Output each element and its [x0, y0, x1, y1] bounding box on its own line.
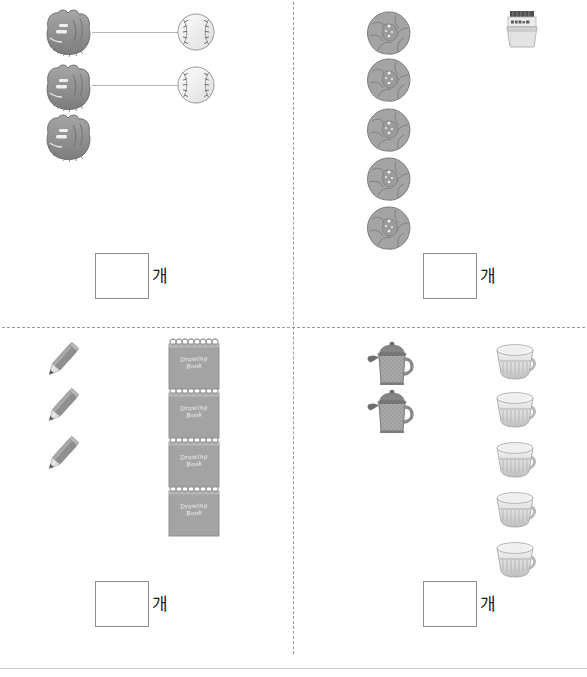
- flower-icon: [366, 10, 412, 56]
- answer-area: 개: [95, 253, 168, 299]
- baseball-glove-icon: [40, 8, 96, 58]
- answer-unit-label: 개: [152, 268, 168, 285]
- quadrant-teaware: 개: [294, 328, 587, 655]
- drawing-book-icon: Drawing Book: [166, 388, 222, 440]
- teapot-icon: [364, 340, 420, 390]
- quadrant-flowers: 개: [294, 0, 587, 327]
- pencil-icon: [42, 340, 88, 386]
- answer-input-box[interactable]: [95, 581, 149, 627]
- drawing-book-icon: Drawing Book: [166, 339, 222, 391]
- flower-icon: [366, 107, 412, 153]
- flower-icon: [366, 205, 412, 251]
- answer-area: 개: [423, 581, 496, 627]
- answer-input-box[interactable]: [95, 253, 149, 299]
- baseball-glove-icon: [40, 113, 96, 163]
- answer-input-box[interactable]: [423, 581, 477, 627]
- answer-input-box[interactable]: [423, 253, 477, 299]
- answer-area: 개: [423, 253, 496, 299]
- jar-icon: [499, 9, 545, 51]
- pencil-icon: [42, 434, 88, 480]
- teacup-icon: [492, 340, 544, 384]
- answer-unit-label: 개: [480, 268, 496, 285]
- baseball-glove-icon: [40, 63, 96, 113]
- flower-icon: [366, 57, 412, 103]
- drawing-book-icon: Drawing Book: [166, 437, 222, 489]
- teacup-icon: [492, 488, 544, 532]
- answer-unit-label: 개: [480, 596, 496, 613]
- drawing-book-icon: Drawing Book: [166, 486, 222, 538]
- teacup-icon: [492, 438, 544, 482]
- teapot-icon: [364, 388, 420, 438]
- baseball-icon: [176, 12, 216, 52]
- bottom-rule: [0, 668, 587, 669]
- teacup-icon: [492, 388, 544, 432]
- answer-area: 개: [95, 581, 168, 627]
- matching-connector-line: [92, 85, 178, 86]
- flower-icon: [366, 156, 412, 202]
- answer-unit-label: 개: [152, 596, 168, 613]
- teacup-icon: [492, 538, 544, 582]
- quadrant-pencils: Drawing Book Drawing Boo: [0, 328, 293, 655]
- matching-connector-line: [92, 32, 178, 33]
- quadrant-baseball: 개: [0, 0, 293, 327]
- baseball-icon: [176, 65, 216, 105]
- worksheet-sheet: 개: [0, 0, 587, 677]
- pencil-icon: [42, 386, 88, 432]
